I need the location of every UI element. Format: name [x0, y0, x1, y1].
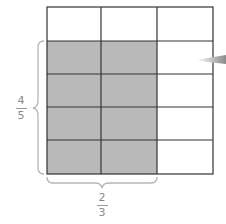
horizontal-fraction-numerator: 2	[99, 191, 106, 204]
vertical-brace	[33, 41, 44, 174]
horizontal-brace	[47, 177, 157, 188]
vertical-fraction-denominator: 5	[18, 109, 25, 122]
area-model-diagram	[0, 0, 226, 224]
horizontal-fraction: 2 3	[95, 192, 109, 219]
vertical-fraction-numerator: 4	[18, 94, 25, 107]
pointer-arrow-icon	[196, 55, 226, 64]
horizontal-fraction-denominator: 3	[99, 206, 106, 219]
vertical-fraction: 4 5	[14, 95, 28, 122]
